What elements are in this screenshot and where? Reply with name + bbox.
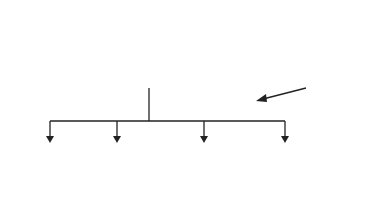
lymphocyte-diagram bbox=[0, 0, 381, 207]
antigen-pointer-arrow bbox=[256, 88, 306, 102]
arrowheads bbox=[46, 136, 289, 143]
division-connector bbox=[50, 88, 285, 136]
